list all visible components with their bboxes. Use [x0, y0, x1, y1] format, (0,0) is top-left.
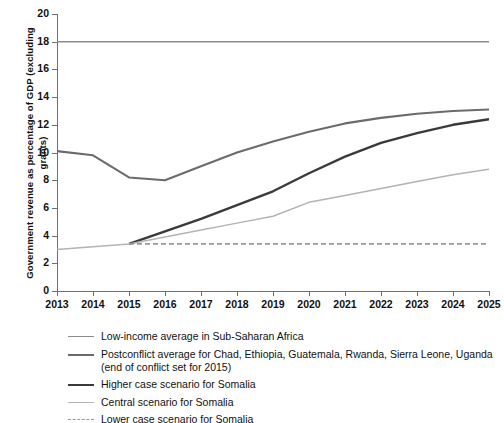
y-tick-label: 10 — [9, 146, 49, 158]
legend-item[interactable]: Lower case scenario for Somalia — [68, 413, 498, 423]
series-line — [57, 110, 489, 181]
y-tick-label: 2 — [9, 256, 49, 268]
x-tick-label: 2015 — [109, 298, 149, 310]
legend-label: Postconflict average for Chad, Ethiopia,… — [101, 348, 493, 375]
legend-item[interactable]: Higher case scenario for Somalia — [68, 378, 498, 392]
plot-lines — [57, 14, 489, 292]
legend-item[interactable]: Central scenario for Somalia — [68, 396, 498, 410]
x-tick-label: 2023 — [397, 298, 437, 310]
legend-item[interactable]: Postconflict average for Chad, Ethiopia,… — [68, 348, 498, 375]
legend-line-icon — [68, 330, 94, 344]
x-tick-label: 2025 — [469, 298, 504, 310]
legend-line-icon — [68, 378, 94, 392]
x-tick-label: 2022 — [361, 298, 401, 310]
y-tick-label: 18 — [9, 35, 49, 47]
x-tick-label: 2019 — [253, 298, 293, 310]
x-tick-label: 2021 — [325, 298, 365, 310]
x-tick-label: 2014 — [73, 298, 113, 310]
y-tick-label: 8 — [9, 173, 49, 185]
series-line — [129, 119, 489, 244]
x-tick-label: 2013 — [37, 298, 77, 310]
legend-line-icon — [68, 396, 94, 410]
legend-label: Lower case scenario for Somalia — [101, 413, 253, 423]
legend-label: Higher case scenario for Somalia — [101, 378, 256, 392]
legend-line-icon — [68, 413, 94, 423]
x-tick-label: 2017 — [181, 298, 221, 310]
x-tick-label: 2016 — [145, 298, 185, 310]
x-tick-label: 2024 — [433, 298, 473, 310]
y-tick-label: 0 — [9, 284, 49, 296]
series-line — [57, 169, 489, 249]
x-tick-label: 2020 — [289, 298, 329, 310]
legend-label: Central scenario for Somalia — [101, 396, 233, 410]
y-tick-label: 12 — [9, 118, 49, 130]
legend-item[interactable]: Low-income average in Sub-Saharan Africa — [68, 330, 498, 344]
legend-label: Low-income average in Sub-Saharan Africa — [101, 330, 304, 344]
x-tick-mark — [489, 291, 490, 296]
y-tick-label: 14 — [9, 90, 49, 102]
revenue-projection-chart: Government revenue as percentage of GDP … — [0, 0, 504, 423]
y-tick-label: 16 — [9, 62, 49, 74]
x-tick-label: 2018 — [217, 298, 257, 310]
y-tick-label: 20 — [9, 7, 49, 19]
y-tick-label: 4 — [9, 229, 49, 241]
chart-legend: Low-income average in Sub-Saharan Africa… — [68, 330, 498, 423]
legend-line-icon — [68, 348, 94, 362]
y-tick-label: 6 — [9, 201, 49, 213]
